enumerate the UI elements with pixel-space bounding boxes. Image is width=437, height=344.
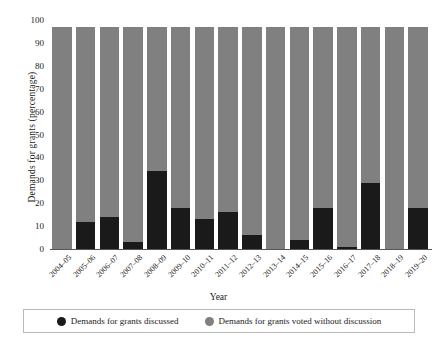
x-axis-tick-label: 2012–13	[237, 253, 263, 279]
bar-segment-voted-without-discussion	[361, 27, 381, 183]
x-axis-tick-label: 2019–20	[403, 253, 429, 279]
bar-column	[361, 20, 381, 249]
bar-segment-voted-without-discussion	[123, 27, 143, 242]
bar-segment-discussed	[313, 208, 333, 249]
x-axis-tick-label: 2009–10	[166, 253, 192, 279]
y-axis-tick-50: 50	[0, 130, 44, 140]
x-axis-tick-label: 2008–09	[142, 253, 168, 279]
filled-circle-icon	[205, 317, 214, 326]
bar-column	[266, 20, 286, 249]
bar-segment-voted-without-discussion	[242, 27, 262, 235]
bar-column	[218, 20, 238, 249]
bar-segment-voted-without-discussion	[171, 27, 191, 208]
filled-circle-icon	[57, 317, 66, 326]
y-axis-tick-60: 60	[0, 107, 44, 117]
bar-segment-discussed	[76, 222, 96, 249]
bar-segment-discussed	[100, 217, 120, 249]
bar-segment-voted-without-discussion	[76, 27, 96, 222]
y-axis-tick-90: 90	[0, 38, 44, 48]
x-axis-title: Year	[0, 292, 437, 302]
bar-segment-voted-without-discussion	[100, 27, 120, 217]
x-axis-tick-label: 2004–05	[47, 253, 73, 279]
bar-segment-voted-without-discussion	[408, 27, 428, 208]
bar-segment-voted-without-discussion	[313, 27, 333, 208]
bar-series-group	[50, 20, 430, 249]
bar-column	[242, 20, 262, 249]
bar-segment-discussed	[195, 219, 215, 249]
bar-segment-voted-without-discussion	[218, 27, 238, 212]
bar-segment-discussed	[242, 235, 262, 249]
y-axis-tick-100: 100	[0, 15, 44, 25]
bar-column	[171, 20, 191, 249]
bar-segment-discussed	[123, 242, 143, 249]
bar-column	[100, 20, 120, 249]
plot-area	[50, 20, 430, 249]
x-axis-tick-label: 2011–12	[214, 253, 240, 279]
stacked-bar-chart: Demands for grants (percentage) 01020304…	[0, 0, 437, 344]
x-axis-tick-label: 2013–14	[261, 253, 287, 279]
legend-item: Demands for grants discussed	[57, 316, 179, 326]
bar-column	[408, 20, 428, 249]
x-axis-tick-label: 2014–15	[285, 253, 311, 279]
chart-legend: Demands for grants discussedDemands for …	[23, 309, 415, 333]
x-axis-tick-label: 2006–07	[95, 253, 121, 279]
bar-column	[52, 20, 72, 249]
bar-segment-voted-without-discussion	[147, 27, 167, 171]
x-axis-tick-label: 2016–17	[332, 253, 358, 279]
y-axis-tick-40: 40	[0, 152, 44, 162]
bar-segment-voted-without-discussion	[290, 27, 310, 240]
y-axis-tick-80: 80	[0, 61, 44, 71]
legend-label: Demands for grants discussed	[71, 316, 179, 326]
bar-column	[123, 20, 143, 249]
y-axis-tick-70: 70	[0, 84, 44, 94]
bar-segment-voted-without-discussion	[385, 27, 405, 249]
x-axis-tick-label: 2015–16	[308, 253, 334, 279]
bar-segment-discussed	[408, 208, 428, 249]
x-axis-tick-label: 2005–06	[71, 253, 97, 279]
x-axis-tick-label: 2017–18	[356, 253, 382, 279]
x-axis-tick-label: 2007–08	[118, 253, 144, 279]
bar-segment-voted-without-discussion	[52, 27, 72, 249]
bar-column	[76, 20, 96, 249]
bar-segment-discussed	[171, 208, 191, 249]
bar-segment-discussed	[290, 240, 310, 249]
bar-segment-voted-without-discussion	[195, 27, 215, 219]
bar-column	[337, 20, 357, 249]
bar-segment-discussed	[361, 183, 381, 249]
y-axis-tick-30: 30	[0, 175, 44, 185]
bar-column	[290, 20, 310, 249]
bar-column	[147, 20, 167, 249]
bar-column	[385, 20, 405, 249]
y-axis-tick-20: 20	[0, 198, 44, 208]
x-axis-tick-label: 2010–11	[190, 253, 216, 279]
bar-segment-discussed	[147, 171, 167, 249]
bar-column	[313, 20, 333, 249]
legend-label: Demands for grants voted without discuss…	[219, 316, 382, 326]
bar-segment-voted-without-discussion	[266, 27, 286, 249]
y-axis-tick-0: 0	[0, 244, 44, 254]
bar-segment-voted-without-discussion	[337, 27, 357, 247]
x-axis-tick-label: 2018–19	[380, 253, 406, 279]
bar-segment-discussed	[218, 212, 238, 249]
y-axis-tick-10: 10	[0, 221, 44, 231]
legend-item: Demands for grants voted without discuss…	[205, 316, 382, 326]
bar-column	[195, 20, 215, 249]
